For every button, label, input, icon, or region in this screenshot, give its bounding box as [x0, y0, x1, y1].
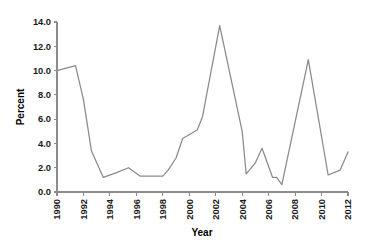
y-axis-group: 0.02.04.06.08.010.012.014.0 [33, 17, 57, 197]
x-axis-tick-labels: 1990199219941996199820002002200420062008… [52, 198, 353, 220]
x-tick-label-1996: 1996 [132, 199, 142, 220]
y-tick-label-12.0: 12.0 [33, 42, 51, 52]
x-tick-label-2004: 2004 [238, 198, 248, 220]
y-tick-label-6.0: 6.0 [38, 114, 51, 124]
line-chart: 0.02.04.06.08.010.012.014.0 199019921994… [0, 0, 371, 242]
x-tick-label-1990: 1990 [52, 199, 62, 220]
y-tick-label-0.0: 0.0 [38, 187, 51, 197]
data-series-group [57, 26, 348, 185]
series-line-percent [57, 26, 348, 185]
x-tick-label-1998: 1998 [158, 199, 168, 220]
x-tick-label-2006: 2006 [264, 199, 274, 220]
x-tick-label-2008: 2008 [290, 199, 300, 220]
x-tick-label-1992: 1992 [79, 199, 89, 220]
y-tick-label-10.0: 10.0 [33, 66, 51, 76]
x-tick-label-2010: 2010 [317, 199, 327, 220]
x-tick-label-2000: 2000 [185, 199, 195, 220]
y-tick-label-2.0: 2.0 [38, 163, 51, 173]
x-axis-title: Year [191, 227, 212, 238]
y-tick-label-8.0: 8.0 [38, 90, 51, 100]
x-tick-label-2002: 2002 [211, 199, 221, 220]
y-axis-title: Percent [15, 88, 26, 125]
x-tick-label-2012: 2012 [343, 199, 353, 220]
x-axis-group: 1990199219941996199820002002200420062008… [52, 192, 353, 220]
y-tick-label-14.0: 14.0 [33, 17, 51, 27]
y-axis-tick-labels: 0.02.04.06.08.010.012.014.0 [33, 17, 51, 197]
x-tick-label-1994: 1994 [105, 198, 115, 220]
y-tick-label-4.0: 4.0 [38, 139, 51, 149]
chart-canvas: 0.02.04.06.08.010.012.014.0 199019921994… [0, 0, 371, 242]
